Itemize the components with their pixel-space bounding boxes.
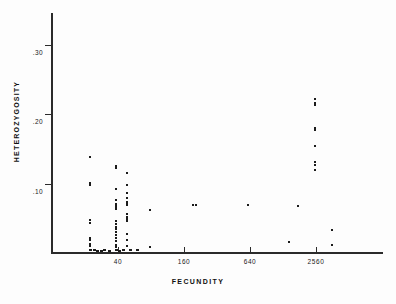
data-point: [314, 104, 316, 106]
data-point: [115, 228, 117, 230]
data-point: [115, 246, 117, 248]
data-point: [126, 204, 128, 206]
data-point: [129, 249, 132, 251]
data-point: [115, 249, 118, 251]
data-point: [314, 129, 316, 131]
data-point: [89, 245, 91, 247]
y-axis-tick: [45, 184, 52, 185]
data-point: [89, 156, 91, 158]
x-axis-tick-label: 2560: [308, 258, 325, 265]
data-point: [331, 229, 333, 231]
data-point: [103, 249, 106, 251]
data-point: [122, 249, 125, 251]
data-point: [126, 197, 128, 199]
data-point: [89, 222, 91, 224]
data-point: [149, 246, 151, 248]
data-point: [297, 205, 299, 207]
data-point: [247, 204, 249, 206]
y-axis-tick-label: .10: [0, 180, 43, 198]
data-point: [126, 245, 128, 247]
data-point: [314, 98, 316, 100]
x-axis-title: FECUNDITY: [0, 278, 396, 285]
data-point: [108, 250, 111, 252]
data-point: [115, 208, 117, 210]
data-point: [115, 167, 117, 169]
data-point: [288, 241, 290, 243]
data-point: [115, 240, 117, 242]
y-axis-tick-label: .20: [0, 110, 43, 128]
data-point: [115, 226, 117, 228]
y-axis-title: HETEROZYGOSITY: [13, 62, 20, 182]
data-point: [136, 249, 139, 251]
scatter-chart-figure: .10.20.30 401606402560 FECUNDITY HETEROZ…: [0, 0, 396, 304]
data-point: [331, 244, 333, 246]
y-axis-tick: [45, 114, 52, 115]
plot-area: [52, 14, 382, 253]
data-point: [314, 145, 316, 147]
data-point: [126, 213, 128, 215]
data-point: [126, 184, 128, 186]
data-point: [126, 220, 128, 222]
data-point: [126, 239, 128, 241]
x-axis-tick-label: 160: [178, 258, 191, 265]
data-point: [115, 188, 117, 190]
data-point: [126, 172, 128, 174]
data-point: [314, 127, 316, 129]
data-point: [126, 192, 128, 194]
data-point: [89, 249, 92, 251]
x-axis-tick-label: 640: [244, 258, 257, 265]
data-point: [115, 244, 117, 246]
data-point: [89, 239, 91, 241]
data-point: [195, 204, 197, 206]
data-point: [314, 161, 316, 163]
data-point: [314, 169, 316, 171]
y-axis-tick: [45, 45, 52, 46]
data-point: [115, 223, 117, 225]
data-point: [149, 209, 151, 211]
data-point: [115, 237, 117, 239]
data-point: [126, 233, 128, 235]
data-point: [115, 199, 117, 201]
x-axis-tick-label: 40: [114, 258, 122, 265]
data-point: [115, 220, 117, 222]
y-axis-tick-label: .30: [0, 41, 43, 59]
data-point: [115, 234, 117, 236]
data-point: [93, 249, 96, 251]
data-point: [89, 219, 91, 221]
data-point: [89, 184, 91, 186]
data-point: [115, 231, 117, 233]
data-point: [314, 164, 316, 166]
